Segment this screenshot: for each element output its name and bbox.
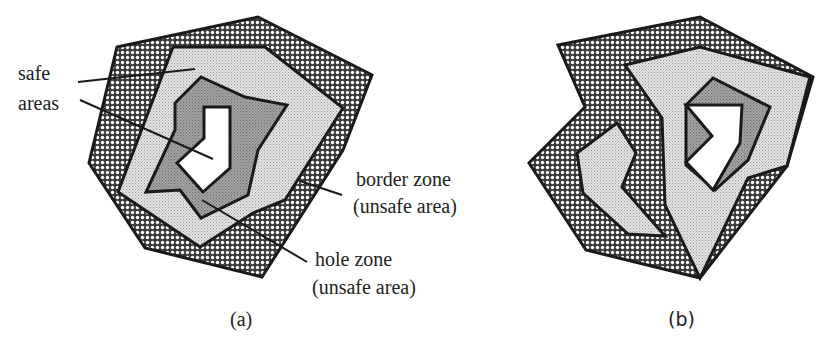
panel-b: (b)	[529, 17, 813, 330]
label-border-zone-note: (unsafe area)	[353, 195, 457, 218]
caption-a: (a)	[230, 308, 252, 331]
caption-b: (b)	[668, 308, 695, 330]
safe-area-diagram: safe areas border zone (unsafe area) hol…	[0, 0, 826, 345]
label-areas: areas	[18, 92, 59, 114]
label-border-zone: border zone	[356, 168, 451, 190]
panel-a: safe areas border zone (unsafe area) hol…	[18, 17, 457, 331]
label-hole-zone-note: (unsafe area)	[312, 276, 416, 299]
label-hole-zone: hole zone	[315, 248, 392, 270]
label-safe: safe	[18, 62, 50, 84]
